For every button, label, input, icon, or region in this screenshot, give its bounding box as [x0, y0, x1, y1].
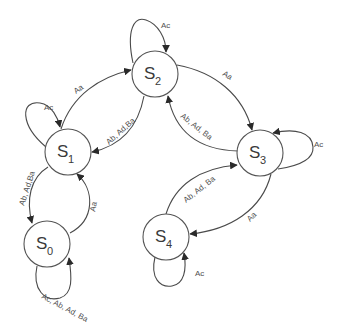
edge-s2-s1: Ab, Ad,Ba [92, 96, 144, 152]
edge-label: Ab, Ad, Ba [179, 111, 215, 142]
state-node-s1: S 1 [45, 129, 91, 175]
node-letter: S [155, 227, 166, 246]
node-subscript: 4 [166, 238, 172, 250]
node-subscript: 0 [47, 245, 53, 257]
edge-s3-s2: Ab, Ad, Ba [168, 96, 238, 151]
edge-label: Ac [314, 140, 323, 149]
node-letter: S [36, 234, 47, 253]
edge-label: Aa [88, 200, 99, 212]
edge-label: Aa [221, 69, 235, 82]
edge-label: Ab, Ad, Ba [182, 174, 218, 205]
edge-s1-s2: Aa [61, 70, 131, 129]
edge-label: Ac, Ab, Ad, Ba [40, 292, 90, 324]
edge-s4-s3: Ab, Ad, Ba [166, 165, 237, 214]
edge-label: Ac [161, 21, 170, 30]
state-node-s3: S 3 [237, 130, 283, 176]
node-letter: S [249, 143, 260, 162]
state-diagram: Ac Aa Ab, Ad,Ba Ac Aa Ab, Ad, Ba Ac Ab, … [0, 0, 340, 326]
edge-s0-self: Ac, Ab, Ad, Ba [36, 258, 90, 324]
node-letter: S [57, 142, 68, 161]
edge-s1-s0: Ab, Ad,Ba [17, 167, 48, 223]
edge-label: Ab, Ad,Ba [17, 169, 37, 206]
node-letter: S [144, 64, 155, 83]
node-subscript: 3 [260, 154, 266, 166]
state-node-s2: S 2 [132, 51, 178, 97]
state-node-s4: S 4 [143, 214, 189, 260]
node-subscript: 2 [155, 75, 161, 87]
edge-label: Ac [195, 269, 204, 278]
state-node-s0: S 0 [24, 221, 70, 267]
edge-s0-s1: Aa [70, 174, 99, 233]
node-subscript: 1 [68, 153, 74, 165]
edge-label: Ac [44, 103, 53, 112]
edge-label: Ab, Ad,Ba [104, 116, 137, 147]
